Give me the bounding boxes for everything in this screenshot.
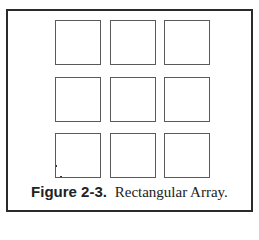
array-cell-r3c1 [55,133,101,178]
figure-title: Rectangular Array. [115,184,228,200]
figure-caption: Figure 2-3. Rectangular Array. [0,183,259,201]
array-cell-r1c3 [164,20,210,65]
array-cell-r1c2 [110,20,156,65]
array-cell-r2c3 [164,77,210,122]
array-cell-r2c2 [110,77,156,122]
array-cell-r3c2 [110,133,156,178]
corner-mark [56,165,57,167]
array-cell-r1c1 [55,20,101,65]
corner-mark [60,176,62,177]
array-cell-r2c1 [55,77,101,122]
array-cell-r3c3 [164,133,210,178]
figure-label: Figure 2-3. [31,183,107,200]
